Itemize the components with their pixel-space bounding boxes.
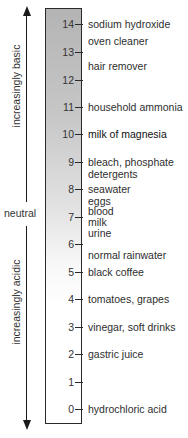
label-detergents: detergents — [88, 168, 138, 180]
tick-number: 8 — [68, 182, 74, 196]
tick-number: 11 — [63, 100, 74, 114]
tick-14: 14 — [45, 17, 85, 31]
label-hair-remover: hair remover — [88, 60, 147, 72]
tick-mark — [75, 244, 83, 245]
tick-1: 1 — [45, 375, 85, 389]
increasingly-acidic-label: increasingly acidic — [10, 259, 22, 344]
tick-mark — [75, 299, 83, 300]
label-tomatoes-grapes: tomatoes, grapes — [88, 293, 169, 305]
tick-number: 0 — [68, 402, 74, 416]
basic-axis-line — [26, 14, 27, 202]
label-black-coffee: black coffee — [88, 266, 144, 278]
tick-number: 2 — [68, 347, 74, 361]
label-household-ammonia: household ammonia — [88, 101, 183, 113]
tick-number: 12 — [62, 73, 74, 87]
label-seawater: seawater — [88, 183, 131, 195]
tick-number: 14 — [62, 17, 74, 31]
acidic-axis-line — [26, 226, 27, 422]
label-gastric-juice: gastric juice — [88, 348, 143, 360]
tick-mark — [75, 272, 83, 273]
tick-mark — [75, 107, 83, 108]
tick-number: 3 — [68, 320, 74, 334]
tick-mark — [75, 189, 83, 190]
label-normal-rainwater: normal rainwater — [88, 249, 166, 261]
tick-2: 2 — [45, 347, 85, 361]
tick-mark — [75, 327, 83, 328]
tick-number: 1 — [68, 375, 74, 389]
label-hydrochloric-acid: hydrochloric acid — [88, 403, 167, 415]
tick-mark — [75, 409, 83, 410]
arrow-down-icon — [23, 420, 31, 430]
tick-number: 10 — [62, 127, 74, 141]
tick-mark — [75, 217, 83, 218]
tick-mark — [75, 80, 83, 81]
tick-13: 13 — [45, 45, 85, 59]
label-milk-of-magnesia: milk of magnesia — [88, 128, 167, 140]
tick-number: 6 — [68, 237, 74, 251]
tick-number: 13 — [62, 45, 74, 59]
tick-4: 4 — [45, 292, 85, 306]
tick-0: 0 — [45, 402, 85, 416]
tick-8: 8 — [45, 182, 85, 196]
label-vinegar-soft-drinks: vinegar, soft drinks — [88, 321, 176, 333]
tick-5: 5 — [45, 265, 85, 279]
tick-9: 9 — [45, 155, 85, 169]
tick-mark — [75, 52, 83, 53]
tick-7: 7 — [45, 210, 85, 224]
tick-11: 11 — [45, 100, 85, 114]
label-urine: urine — [88, 227, 111, 239]
tick-3: 3 — [45, 320, 85, 334]
label-oven-cleaner: oven cleaner — [88, 35, 148, 47]
label-sodium-hydroxide: sodium hydroxide — [88, 18, 170, 30]
tick-mark — [75, 162, 83, 163]
neutral-label: neutral — [4, 207, 36, 219]
tick-number: 9 — [68, 155, 74, 169]
label-bleach: bleach, phosphate — [88, 156, 174, 168]
tick-mark — [75, 382, 83, 383]
tick-6: 6 — [45, 237, 85, 251]
increasingly-basic-label: increasingly basic — [10, 45, 22, 128]
tick-number: 4 — [68, 292, 74, 306]
tick-mark — [75, 134, 83, 135]
tick-mark — [75, 24, 83, 25]
tick-12: 12 — [45, 73, 85, 87]
tick-number: 5 — [68, 265, 74, 279]
tick-mark — [75, 354, 83, 355]
tick-10: 10 — [45, 127, 85, 141]
tick-number: 7 — [68, 210, 74, 224]
